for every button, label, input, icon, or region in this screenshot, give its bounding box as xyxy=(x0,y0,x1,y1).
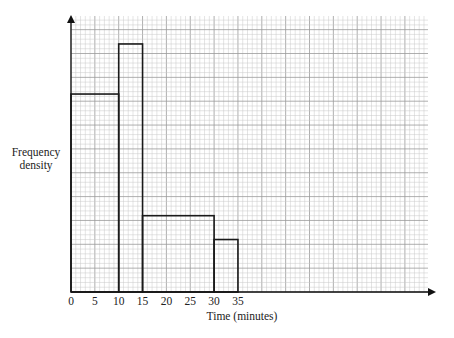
y-axis-arrow-icon xyxy=(67,15,75,23)
y-axis-label-line1: Frequency xyxy=(4,146,68,159)
x-axis-arrow-icon xyxy=(428,288,436,296)
x-axis-label: Time (minutes) xyxy=(0,310,454,322)
x-tick-label: 35 xyxy=(232,295,244,307)
x-tick-label: 15 xyxy=(137,295,149,307)
y-axis-label: Frequency density xyxy=(4,146,68,172)
x-tick-label: 5 xyxy=(92,295,98,307)
x-tick-label: 10 xyxy=(113,295,125,307)
x-tick-label: 25 xyxy=(185,295,197,307)
x-tick-label: 0 xyxy=(68,295,74,307)
x-tick-labels: 05101520253035 xyxy=(68,295,244,307)
grid xyxy=(71,16,428,292)
y-axis-label-line2: density xyxy=(4,159,68,172)
x-tick-label: 30 xyxy=(208,295,220,307)
x-tick-label: 20 xyxy=(161,295,173,307)
histogram-bar xyxy=(214,240,238,292)
histogram-chart: 05101520253035 xyxy=(0,0,454,338)
